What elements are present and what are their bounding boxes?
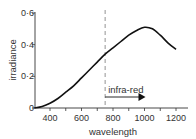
x-tick-label: 800 — [105, 113, 120, 123]
y-tick-label: 0·2 — [21, 71, 34, 81]
x-axis-label: wavelength — [88, 126, 137, 137]
irradiance-chart: 00·20·40·6 40060080010001200 irradiance … — [0, 0, 196, 139]
y-axis: 00·20·40·6 — [21, 8, 35, 113]
x-tick-label: 600 — [74, 113, 89, 123]
y-axis-label: irradiance — [7, 39, 18, 81]
x-axis: 40060080010001200 — [35, 108, 188, 123]
y-tick-label: 0·6 — [21, 8, 34, 18]
y-tick-label: 0·4 — [21, 40, 34, 50]
y-tick-label: 0 — [29, 103, 34, 113]
x-tick-label: 400 — [42, 113, 57, 123]
x-tick-label: 1200 — [166, 113, 186, 123]
x-tick-label: 1000 — [134, 113, 154, 123]
infra-red-label: infra-red — [108, 84, 143, 95]
infra-red-annotation: infra-red — [105, 84, 145, 101]
